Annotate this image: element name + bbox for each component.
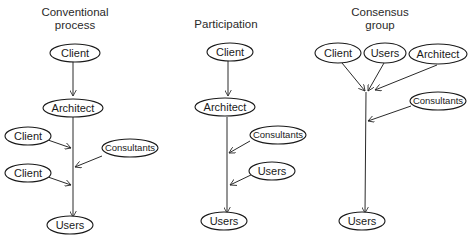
svg-text:Consultants: Consultants [253,129,303,140]
node-client-left1: Client [5,127,51,145]
node-consultants: Consultants [102,139,158,157]
svg-text:Client: Client [324,47,352,59]
node-client-left2: Client [5,164,51,182]
svg-text:Architect: Architect [204,101,247,113]
node-users-bottom: Users [339,212,385,230]
node-client: Client [315,43,361,63]
title-conventional-line2: process [55,19,96,31]
edge-line-to-users [365,92,366,213]
svg-text:Client: Client [216,46,244,58]
edge-client-to-line [342,63,365,91]
node-users-top: Users [364,43,406,63]
svg-text:Consultants: Consultants [413,95,463,106]
node-architect: Architect [409,44,467,64]
svg-text:Architect: Architect [52,102,95,114]
svg-text:Users: Users [348,215,377,227]
diagram-canvas: Conventional process Client Architect Cl… [0,0,470,243]
node-architect: Architect [195,98,255,116]
title-consensus-line1: Consensus [351,6,409,18]
node-users-right: Users [249,162,295,180]
svg-text:Client: Client [14,130,42,142]
node-client-top: Client [207,43,253,61]
svg-text:Architect: Architect [417,48,460,60]
svg-text:Users: Users [258,165,287,177]
column-conventional-process: Conventional process Client Architect Cl… [5,6,158,234]
edge-consultants-to-line [75,156,102,167]
node-consultants: Consultants [250,126,306,144]
node-architect: Architect [43,99,103,117]
edge-architect-to-line [375,65,437,90]
edge-consultants-to-line [229,141,250,153]
svg-text:Consultants: Consultants [105,142,155,153]
title-participation: Participation [194,18,257,30]
title-consensus-line2: group [365,19,394,31]
edge-users-to-line [230,174,253,185]
svg-text:Client: Client [61,47,89,59]
node-users-bottom: Users [201,212,247,230]
svg-text:Users: Users [371,47,400,59]
edge-client2-to-line [48,177,71,185]
svg-text:Users: Users [56,219,85,231]
svg-text:Client: Client [14,167,42,179]
node-consultants: Consultants [410,92,466,110]
column-participation: Participation Client Architect Consultan… [194,18,306,230]
node-users-bottom: Users [47,216,93,234]
title-conventional-line1: Conventional [41,6,108,18]
edge-client1-to-line [48,140,71,148]
edge-consultants-to-line [368,106,411,121]
column-consensus-group: Consensus group Client Users Architect C… [315,6,467,230]
node-client-top: Client [50,44,100,62]
svg-text:Users: Users [210,215,239,227]
